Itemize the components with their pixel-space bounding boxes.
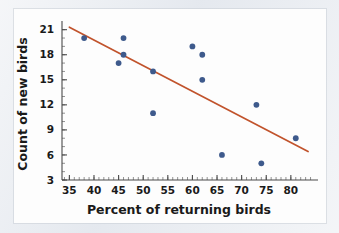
x-tick-label: 75 <box>259 184 274 196</box>
data-point <box>150 110 156 116</box>
data-point <box>258 160 264 166</box>
x-tick-label: 80 <box>284 184 299 196</box>
y-tick-label: 3 <box>47 174 54 186</box>
x-tick-label: 50 <box>136 184 151 196</box>
data-point <box>150 69 156 75</box>
y-tick-label: 21 <box>39 23 54 35</box>
data-point <box>199 77 205 83</box>
y-tick-label: 18 <box>39 48 54 60</box>
data-point <box>81 35 87 41</box>
x-tick-label: 70 <box>234 184 249 196</box>
x-tick-label: 45 <box>111 184 126 196</box>
scatter-plot-figure: 35404550556065707580 36912151821 Percent… <box>0 0 339 233</box>
data-point <box>293 135 299 141</box>
data-point <box>190 43 196 49</box>
data-point <box>121 52 127 58</box>
data-point <box>254 102 260 108</box>
data-point <box>219 152 225 158</box>
data-point <box>116 60 122 66</box>
x-tick-label: 60 <box>185 184 200 196</box>
data-point <box>199 52 205 58</box>
y-tick-label: 12 <box>39 98 54 110</box>
x-tick-label: 40 <box>87 184 102 196</box>
x-axis-title: Percent of returning birds <box>87 202 271 217</box>
y-tick-label: 9 <box>47 123 54 135</box>
y-tick-label: 6 <box>47 149 54 161</box>
data-point <box>121 35 127 41</box>
x-tick-label: 65 <box>210 184 225 196</box>
plot-card: 35404550556065707580 36912151821 Percent… <box>14 9 326 223</box>
chart-canvas: 35404550556065707580 36912151821 Percent… <box>14 9 326 223</box>
x-tick-label: 55 <box>161 184 176 196</box>
y-axis-title: Count of new birds <box>15 37 30 170</box>
x-tick-label: 35 <box>62 184 77 196</box>
y-tick-label: 15 <box>39 73 54 85</box>
